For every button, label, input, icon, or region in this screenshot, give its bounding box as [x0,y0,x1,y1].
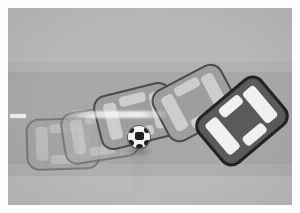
ball-panel [136,144,143,148]
ball-panel [128,127,134,133]
lane-dash [10,114,26,118]
car-window-left [35,127,48,161]
band-upper-ground [8,8,292,62]
soccer-ball [128,126,150,148]
image-canvas [0,0,300,213]
ball-panel [144,140,150,146]
photo-plate [8,8,292,205]
ball-panel [135,132,144,140]
band-upper-shoulder [8,62,292,72]
ball-panel [128,140,134,146]
band-lower-ground [8,176,292,205]
ball-panel [144,127,150,133]
